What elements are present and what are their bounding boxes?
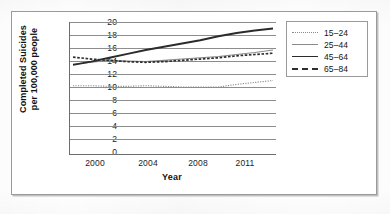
legend-swatch-65-84-icon bbox=[292, 64, 318, 74]
series-line-15-24 bbox=[73, 81, 273, 88]
legend-item-45-64: 45–64 bbox=[292, 51, 367, 63]
legend: 15–24 25–44 45–64 65–84 bbox=[286, 21, 368, 77]
x-tick-2011: 2011 bbox=[225, 158, 265, 168]
x-tick-2000: 2000 bbox=[75, 158, 115, 168]
legend-item-15-24: 15–24 bbox=[292, 27, 367, 39]
legend-item-65-84: 65–84 bbox=[292, 63, 367, 75]
series-layer bbox=[70, 22, 276, 154]
legend-label-25-44: 25–44 bbox=[324, 40, 348, 50]
y-axis-title-line2: per 100,000 people bbox=[29, 0, 40, 139]
legend-swatch-15-24-icon bbox=[292, 28, 318, 38]
legend-item-25-44: 25–44 bbox=[292, 39, 367, 51]
y-axis-title-line1: Completed Suicides bbox=[18, 0, 29, 139]
x-axis-title: Year bbox=[69, 172, 275, 182]
legend-label-65-84: 65–84 bbox=[324, 64, 348, 74]
legend-label-45-64: 45–64 bbox=[324, 52, 348, 62]
legend-label-15-24: 15–24 bbox=[324, 28, 348, 38]
x-tick-2004: 2004 bbox=[128, 158, 168, 168]
y-axis-title: Completed Suicides per 100,000 people bbox=[18, 0, 40, 139]
series-line-25-44 bbox=[73, 50, 273, 64]
legend-swatch-25-44-icon bbox=[292, 40, 318, 50]
line-chart: Completed Suicides per 100,000 people 20… bbox=[0, 0, 390, 214]
legend-swatch-45-64-icon bbox=[292, 52, 318, 62]
x-tick-2008: 2008 bbox=[178, 158, 218, 168]
plot-area bbox=[69, 22, 276, 155]
